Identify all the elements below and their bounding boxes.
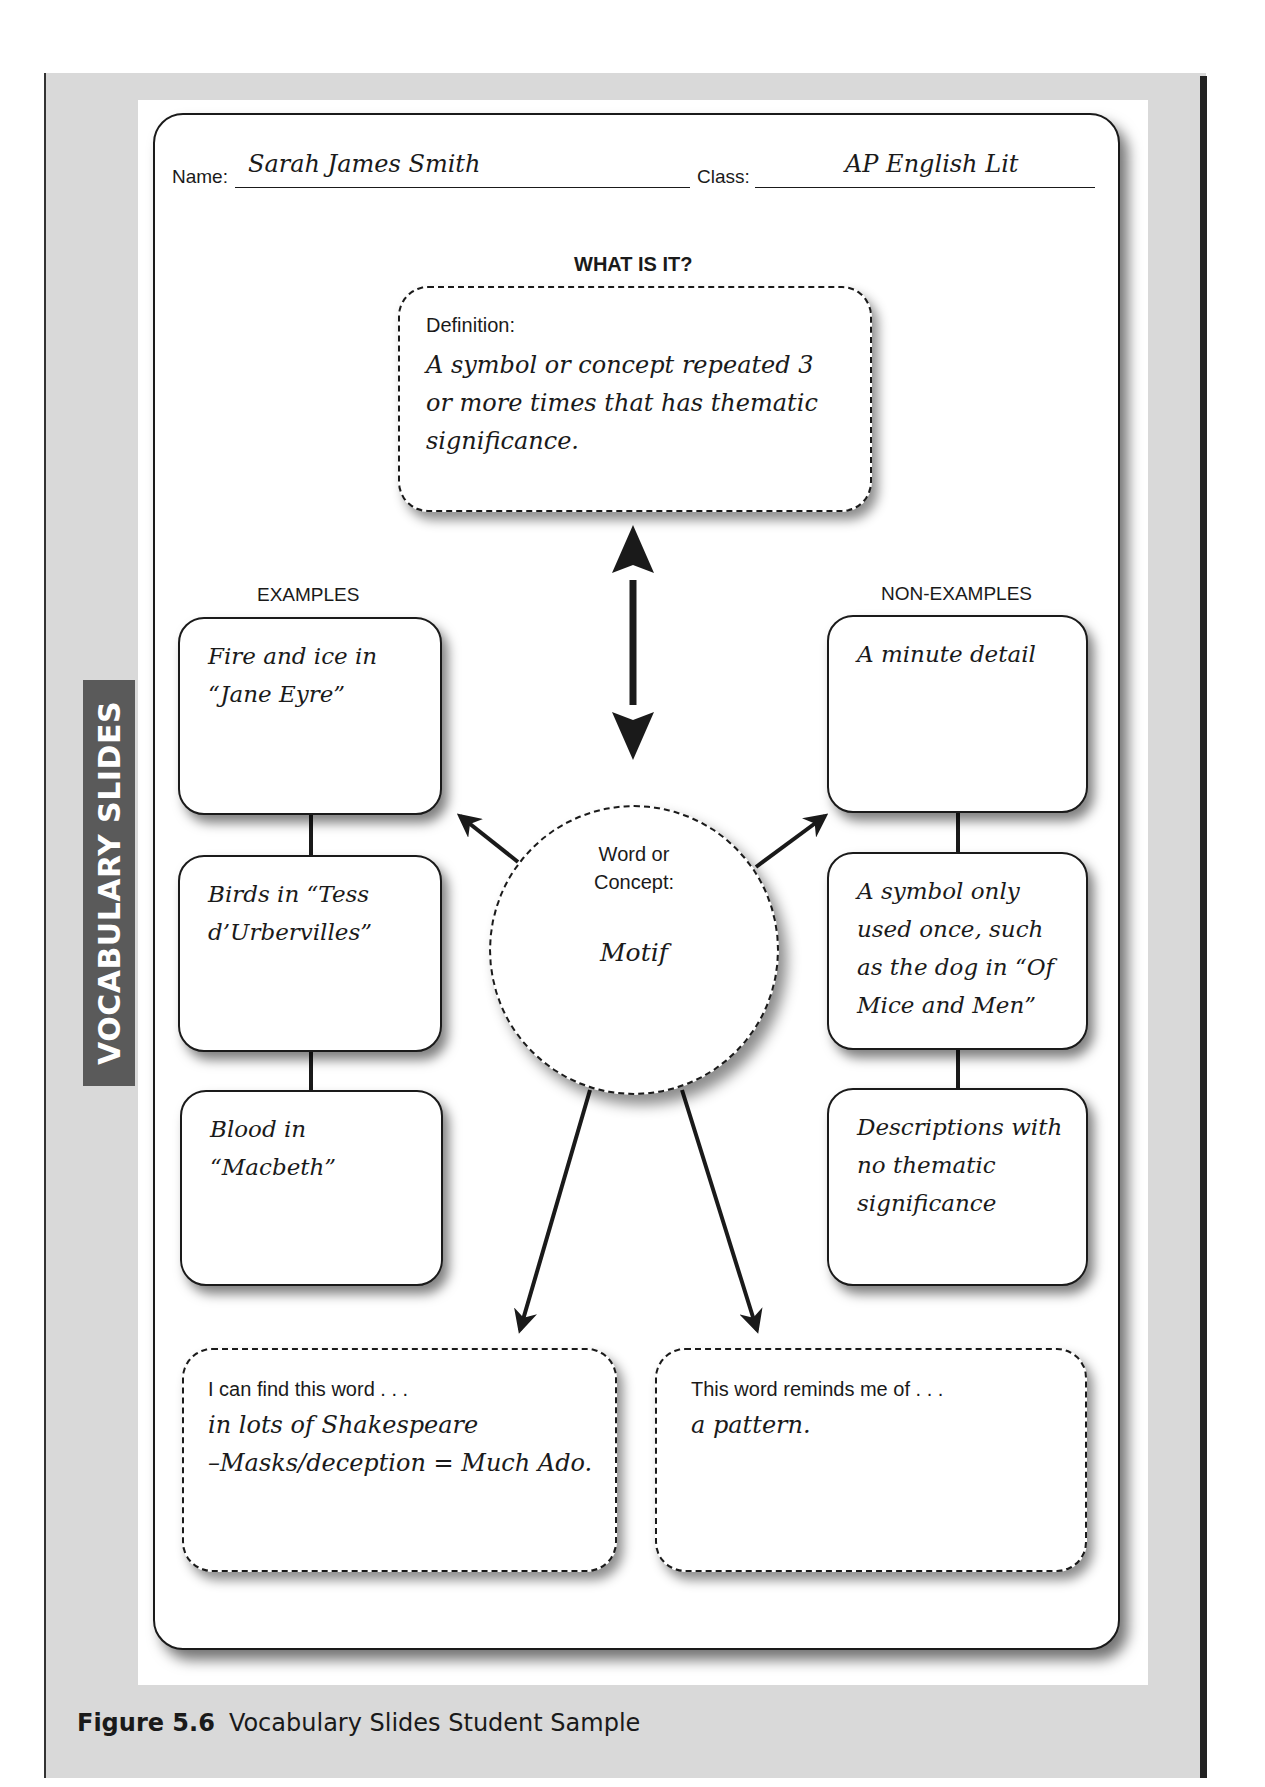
- non-examples-heading: NON-EXAMPLES: [881, 583, 1032, 605]
- side-tab-label: VOCABULARY SLIDES: [92, 701, 127, 1065]
- find-word-value: in lots of Shakespeare –Masks/deception …: [208, 1406, 599, 1482]
- class-underline: [755, 187, 1095, 188]
- non-example-text-1: A minute detail: [857, 635, 1068, 673]
- concept-label-line-1: Word or: [491, 840, 777, 868]
- figure-title: Vocabulary Slides Student Sample: [229, 1709, 640, 1737]
- name-underline: [235, 187, 690, 188]
- panel-edge: [1200, 76, 1207, 1778]
- example-box-3[interactable]: Blood in “Macbeth”: [180, 1090, 443, 1286]
- example-box-1[interactable]: Fire and ice in “Jane Eyre”: [178, 617, 442, 815]
- find-word-line-2: –Masks/deception = Much Ado.: [208, 1444, 599, 1482]
- examples-connector-1: [309, 815, 313, 857]
- non-example-box-2[interactable]: A symbol only used once, such as the dog…: [827, 852, 1088, 1050]
- concept-label-line-2: Concept:: [491, 868, 777, 896]
- example-box-2[interactable]: Birds in “Tess d’Urbervilles”: [178, 855, 442, 1052]
- find-word-box[interactable]: I can find this word . . . in lots of Sh…: [182, 1348, 617, 1572]
- reminds-me-box[interactable]: This word reminds me of . . . a pattern.: [655, 1348, 1087, 1572]
- examples-connector-2: [309, 1050, 313, 1092]
- non-example-box-1[interactable]: A minute detail: [827, 615, 1088, 813]
- class-label: Class:: [697, 166, 750, 188]
- reminds-me-label: This word reminds me of . . .: [691, 1378, 943, 1401]
- side-tab: VOCABULARY SLIDES: [83, 680, 135, 1086]
- figure-number: Figure 5.6: [77, 1709, 215, 1737]
- non-examples-connector-2: [956, 1050, 960, 1090]
- class-value[interactable]: AP English Lit: [845, 150, 1018, 178]
- definition-box[interactable]: Definition: A symbol or concept repeated…: [398, 286, 872, 512]
- name-label: Name:: [172, 166, 228, 188]
- figure-caption: Figure 5.6Vocabulary Slides Student Samp…: [77, 1709, 640, 1737]
- what-is-it-heading: WHAT IS IT?: [574, 253, 693, 276]
- non-example-box-3[interactable]: Descriptions with no thematic significan…: [827, 1088, 1088, 1286]
- concept-value: Motif: [491, 938, 777, 967]
- examples-heading: EXAMPLES: [257, 584, 359, 606]
- find-word-label: I can find this word . . .: [208, 1378, 408, 1401]
- name-value[interactable]: Sarah James Smith: [248, 150, 480, 178]
- reminds-me-value: a pattern.: [691, 1406, 1069, 1444]
- non-example-text-2: A symbol only used once, such as the dog…: [857, 872, 1068, 1024]
- example-text-1: Fire and ice in “Jane Eyre”: [208, 637, 422, 713]
- definition-value: A symbol or concept repeated 3 or more t…: [426, 346, 840, 460]
- definition-label: Definition:: [426, 314, 515, 337]
- find-word-line-1: in lots of Shakespeare: [208, 1406, 599, 1444]
- non-example-text-3: Descriptions with no thematic significan…: [857, 1108, 1068, 1222]
- non-examples-connector-1: [956, 812, 960, 854]
- concept-circle[interactable]: Word or Concept: Motif: [489, 805, 779, 1095]
- example-text-2: Birds in “Tess d’Urbervilles”: [208, 875, 422, 951]
- example-text-3: Blood in “Macbeth”: [210, 1110, 423, 1186]
- concept-label: Word or Concept:: [491, 840, 777, 896]
